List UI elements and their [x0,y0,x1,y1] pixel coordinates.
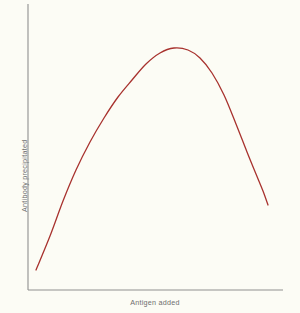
y-axis-label: Antibody precipitated [20,140,29,212]
precipitin-curve-figure: Antibody precipitated Antigen added [0,0,300,313]
chart-plot-area [0,0,300,313]
x-axis-label: Antigen added [0,298,300,307]
precipitin-curve-line [36,48,268,270]
